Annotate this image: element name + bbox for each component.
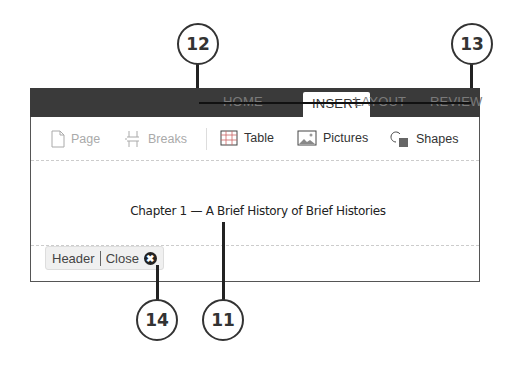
callout-connector-tabs xyxy=(199,102,471,104)
table-icon xyxy=(220,130,238,146)
table-label: Table xyxy=(244,131,274,145)
page-label: Page xyxy=(71,132,100,146)
separator xyxy=(100,251,101,266)
callout-13: 13 xyxy=(451,23,493,65)
insert-toolbar: Page Breaks Table Pictures Shapes xyxy=(31,118,479,160)
pictures-icon xyxy=(297,130,317,146)
callout-line-14 xyxy=(156,265,159,300)
header-close-bar: Header Close ✖ xyxy=(45,246,164,270)
breaks-button[interactable]: Breaks xyxy=(124,130,187,148)
close-label[interactable]: Close xyxy=(106,251,139,266)
header-label: Header xyxy=(52,251,95,266)
page-button[interactable]: Page xyxy=(51,130,100,148)
breaks-icon xyxy=(124,130,142,148)
callout-12: 12 xyxy=(177,23,219,65)
toolbar-divider xyxy=(206,128,207,150)
pictures-label: Pictures xyxy=(323,131,368,145)
breaks-label: Breaks xyxy=(148,132,187,146)
document-header-text[interactable]: Chapter 1 — A Brief History of Brief His… xyxy=(0,204,516,218)
shapes-icon xyxy=(390,130,410,148)
callout-11: 11 xyxy=(202,299,244,341)
table-button[interactable]: Table xyxy=(220,130,274,146)
callout-14: 14 xyxy=(136,299,178,341)
page-icon xyxy=(51,130,65,148)
shapes-label: Shapes xyxy=(416,132,458,146)
toolbar-bottom-divider xyxy=(31,160,479,161)
pictures-button[interactable]: Pictures xyxy=(297,130,368,146)
shapes-button[interactable]: Shapes xyxy=(390,130,458,148)
callout-line-11 xyxy=(222,222,225,300)
close-icon[interactable]: ✖ xyxy=(144,252,157,265)
